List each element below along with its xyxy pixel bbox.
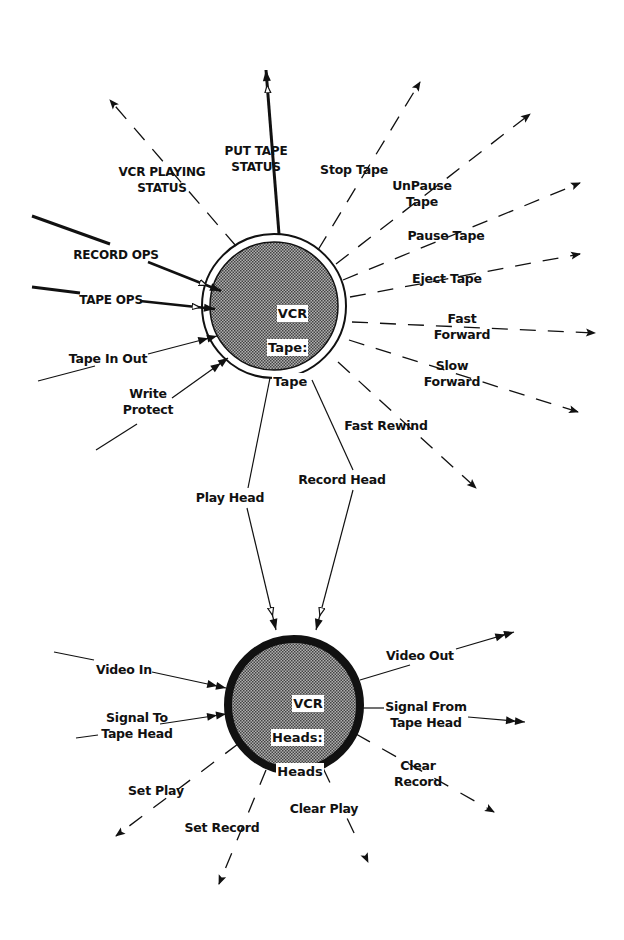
label-set-play: Set Play [128,783,184,799]
label-stop-tape: Stop Tape [320,162,388,178]
data-flow-diagram [0,0,624,940]
label-pause-tape: Pause Tape [407,228,484,244]
label-video-out: Video Out [386,648,454,664]
label-fast-rewind: Fast Rewind [344,418,428,434]
label-eject-tape: Eject Tape [412,271,482,287]
node-label-vcr-tape: VCR Tape: Tape [258,288,308,390]
label-slow-forward: Slow Forward [424,358,480,390]
label-play-head: Play Head [196,490,265,506]
node-label-line: Tape [272,373,308,390]
label-record-head: Record Head [298,472,386,488]
label-clear-record: Clear Record [394,758,442,790]
flow-tape-ops[interactable] [32,287,80,293]
label-signal-from-tape-head: Signal From Tape Head [385,699,467,731]
label-video-in: Video In [96,662,152,678]
node-label-vcr-heads: VCR Heads: Heads [262,678,324,780]
flow-record-ops[interactable] [32,216,110,244]
node-label-line: Tape: [267,339,308,356]
label-tape-ops: TAPE OPS [79,292,143,308]
label-unpause-tape: UnPause Tape [392,178,452,210]
label-vcr-playing-status: VCR PLAYING STATUS [119,164,206,196]
node-label-line: VCR [292,695,324,712]
node-label-line: Heads: [271,729,324,746]
label-set-record: Set Record [184,820,259,836]
label-fast-forward: Fast Forward [434,311,490,343]
node-label-line: VCR [277,305,309,322]
label-put-tape-status: PUT TAPE STATUS [225,143,288,175]
label-record-ops: RECORD OPS [73,247,158,263]
label-clear-play: Clear Play [290,801,359,817]
node-label-line: Heads [276,763,324,780]
flow-signal-to-tape-head[interactable] [76,735,98,738]
flow-video-in[interactable] [54,652,94,660]
flow-play-head[interactable] [248,378,270,488]
flow-write-protect[interactable] [96,424,137,450]
label-tape-in-out: Tape In Out [69,351,147,367]
label-signal-to-tape-head: Signal To Tape Head [101,710,173,742]
flow-video-out[interactable] [360,665,410,680]
flow-tape-in-out[interactable] [38,366,95,381]
label-write-protect: Write Protect [123,386,173,418]
